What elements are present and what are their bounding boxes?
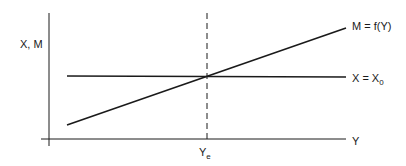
diagram-canvas: [0, 0, 406, 166]
imports-line-label: M = f(Y): [352, 21, 391, 32]
exports-line-label: X = X0: [352, 73, 384, 84]
equilibrium-income-label: Ye: [199, 147, 211, 158]
x-axis-label: Y: [352, 136, 359, 147]
exports-label-main: X = X: [352, 72, 379, 84]
exports-label-subscript: 0: [379, 78, 383, 87]
y-axis-label: X, M: [20, 39, 43, 50]
equilibrium-label-subscript: e: [206, 152, 210, 161]
